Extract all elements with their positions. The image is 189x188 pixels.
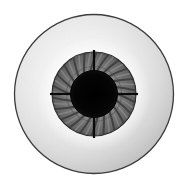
illustration-canvas: Eyeball anatomical illustration [0, 0, 189, 188]
iris-stria [54, 103, 73, 104]
iris-stria [103, 116, 104, 135]
eye-illustration: Eyeball anatomical illustration [0, 0, 189, 188]
iris-stria [116, 84, 135, 85]
pupil-group [71, 71, 118, 118]
iris-stria [84, 54, 85, 73]
